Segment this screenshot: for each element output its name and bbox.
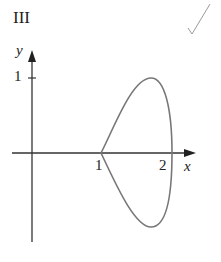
y-tick-label-1: 1 xyxy=(14,68,22,85)
x-tick-label-2: 2 xyxy=(159,157,167,174)
y-axis-arrow-icon xyxy=(28,50,36,62)
check-mark-icon xyxy=(188,4,210,34)
x-axis-label: x xyxy=(184,158,191,175)
x-axis-arrow-icon xyxy=(184,149,196,157)
x-tick-label-1: 1 xyxy=(95,157,103,174)
diagram-canvas xyxy=(0,0,221,262)
y-axis-label: y xyxy=(16,42,23,59)
panel-label: III xyxy=(13,8,30,28)
